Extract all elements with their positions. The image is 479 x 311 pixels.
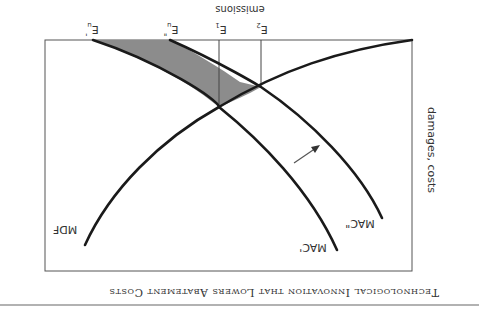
arrow-head-icon	[311, 145, 320, 153]
mdf-curve	[85, 40, 412, 245]
svg-text:E1: E1	[215, 21, 226, 36]
label-eu-double-prime: Eu"	[163, 21, 178, 36]
svg-text:Eu": Eu"	[163, 21, 178, 36]
svg-text:E2: E2	[256, 21, 267, 36]
diagram-figure: Technological Innovation that Lowers Aba…	[0, 0, 479, 311]
y-axis-label: damages, costs	[425, 107, 438, 193]
shift-arrow	[294, 148, 316, 163]
mdf-label: MDF	[53, 223, 77, 236]
figure-title: Technological Innovation that Lowers Aba…	[109, 286, 439, 299]
svg-text:Eu': Eu'	[85, 21, 99, 36]
label-eu-prime: Eu'	[85, 21, 99, 36]
mac2-label: MAC"	[345, 217, 375, 230]
mac1-label: MAC'	[299, 241, 327, 254]
label-e2: E2	[256, 21, 267, 36]
x-axis-label: emissions	[215, 4, 265, 15]
label-e1: E1	[215, 21, 226, 36]
